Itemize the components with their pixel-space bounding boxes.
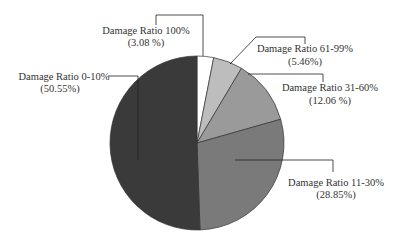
label-11-30-name: Damage Ratio 11-30% — [288, 177, 384, 188]
label-100-name: Damage Ratio 100% — [102, 25, 190, 36]
label-31-60-pct: (12.06 %) — [309, 95, 351, 107]
leader-31-60 — [248, 74, 323, 82]
label-61-99-name: Damage Ratio 61-99% — [257, 43, 353, 54]
label-0-10-pct: (50.55%) — [40, 83, 80, 95]
label-100-pct: (3.08 %) — [128, 37, 165, 49]
label-11-30-pct: (28.85%) — [316, 189, 356, 201]
pie-chart-svg: Damage Ratio 100% (3.08 %) Damage Ratio … — [0, 0, 403, 239]
pie-slices — [110, 56, 284, 230]
pie-chart: Damage Ratio 100% (3.08 %) Damage Ratio … — [0, 0, 403, 239]
label-61-99-pct: (5.46%) — [288, 56, 323, 68]
label-31-60-name: Damage Ratio 31-60% — [282, 82, 378, 93]
label-0-10-name: Damage Ratio 0-10% — [19, 71, 110, 82]
pie-slice — [110, 56, 200, 230]
